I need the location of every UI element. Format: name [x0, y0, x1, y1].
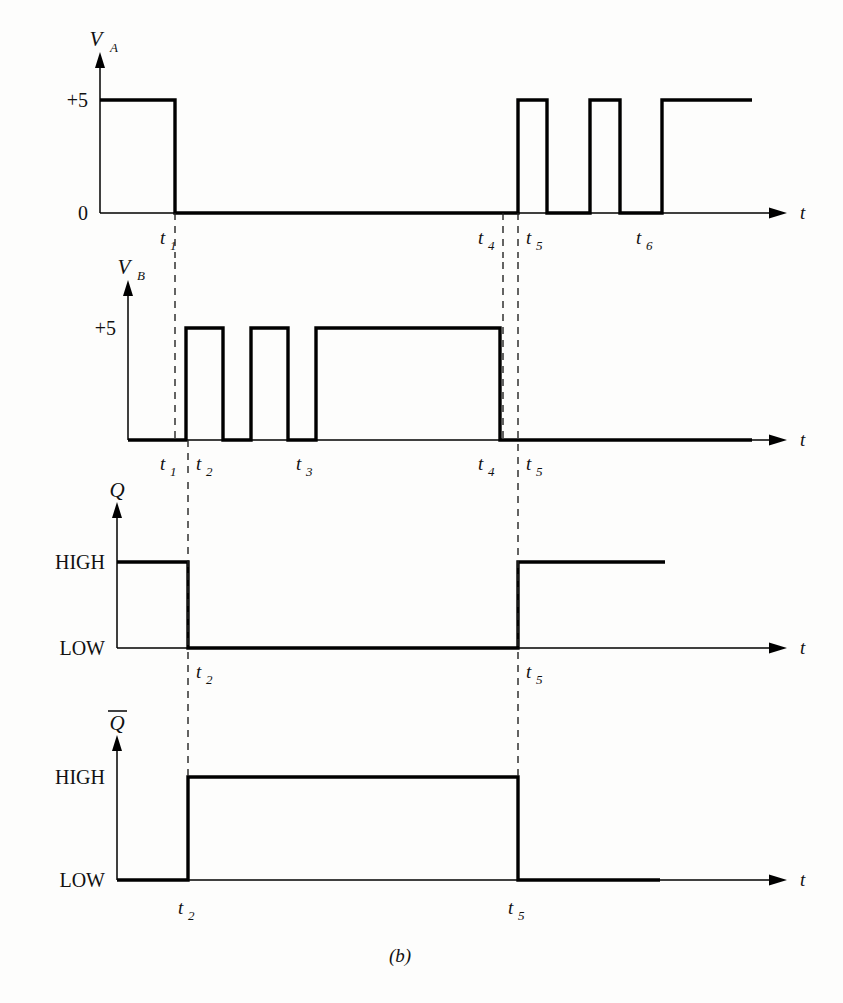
vb-tick-t5-sub: 5	[536, 464, 543, 479]
va-level-high-label: +5	[67, 89, 88, 111]
vb-tick-t4: t	[478, 453, 484, 474]
vb-tick-t4-sub: 4	[488, 464, 495, 479]
va-tick-t5-sub: 5	[536, 238, 543, 253]
va-level-low-label: 0	[78, 202, 88, 224]
qbar-tick-t2-sub: 2	[188, 908, 195, 923]
q-tick-t5: t	[526, 661, 532, 682]
qbar-tick-t2: t	[178, 897, 184, 918]
q-tick-t5-sub: 5	[536, 672, 543, 687]
vb-signal-subscript: B	[137, 268, 145, 283]
vb-tick-t3: t	[296, 453, 302, 474]
qbar-t-axis-label: t	[800, 869, 806, 890]
qbar-tick-t5: t	[508, 897, 514, 918]
vb-tick-t1-sub: 1	[170, 464, 177, 479]
va-t-axis-label: t	[800, 202, 806, 223]
va-tick-t4-sub: 4	[488, 238, 495, 253]
vb-signal-label: V	[118, 255, 133, 279]
q-level-high-label: HIGH	[55, 551, 105, 573]
q-tick-t2-sub: 2	[206, 672, 213, 687]
va-tick-t6-sub: 6	[646, 238, 653, 253]
qbar-level-high-label: HIGH	[55, 766, 105, 788]
vb-tick-t3-sub: 3	[305, 464, 313, 479]
va-signal-subscript: A	[109, 40, 118, 55]
vb-tick-t2: t	[196, 453, 202, 474]
va-tick-t1: t	[160, 227, 166, 248]
vb-level-high-label: +5	[95, 317, 116, 339]
vb-t-axis-label: t	[800, 429, 806, 450]
q-signal-label: Q	[109, 478, 124, 502]
q-t-axis-label: t	[800, 637, 806, 658]
q-tick-t2: t	[196, 661, 202, 682]
timing-diagram-text-layer: V A +5 0 t t 1 t 4 t 5 t 6 V B +5 t t 1 …	[0, 0, 843, 1003]
vb-tick-t2-sub: 2	[206, 464, 213, 479]
va-tick-t6: t	[636, 227, 642, 248]
qbar-signal-label: Q	[109, 711, 124, 735]
va-tick-t1-sub: 1	[170, 238, 177, 253]
vb-tick-t1: t	[160, 453, 166, 474]
qbar-level-low-label: LOW	[59, 869, 105, 891]
va-tick-t5: t	[526, 227, 532, 248]
vb-tick-t5: t	[526, 453, 532, 474]
timing-diagram-figure: V A +5 0 t t 1 t 4 t 5 t 6 V B +5 t t 1 …	[0, 0, 843, 1003]
q-level-low-label: LOW	[59, 637, 105, 659]
figure-caption: (b)	[389, 945, 411, 967]
qbar-tick-t5-sub: 5	[518, 908, 525, 923]
va-tick-t4: t	[478, 227, 484, 248]
va-signal-label: V	[90, 27, 105, 51]
